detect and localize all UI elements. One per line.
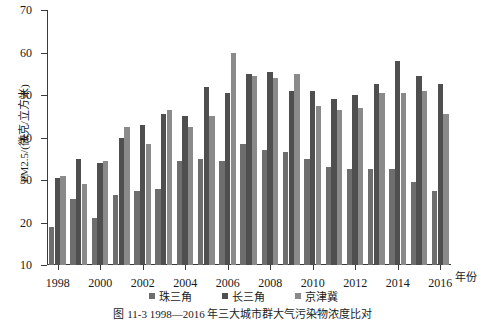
bar-2003-series-0[interactable] <box>155 189 160 266</box>
bar-2008-series-0[interactable] <box>262 150 267 265</box>
legend-swatch-icon <box>149 293 155 299</box>
bar-group-2008 <box>262 10 279 265</box>
bar-2009-series-2[interactable] <box>294 74 299 265</box>
figure-caption: 图 11-3 1998—2016 年三大城市群大气污染物浓度比对 <box>0 305 486 321</box>
bar-2010-series-1[interactable] <box>310 91 315 265</box>
x-tick-2008: 2008 <box>270 265 271 270</box>
x-tick-2006: 2006 <box>228 265 229 270</box>
bar-2011-series-0[interactable] <box>326 167 331 265</box>
bar-2002-series-2[interactable] <box>146 144 151 265</box>
bar-group-2007 <box>240 10 257 265</box>
bar-1998-series-0[interactable] <box>49 227 54 265</box>
bar-2008-series-2[interactable] <box>273 78 278 265</box>
legend-swatch-icon <box>295 293 301 299</box>
bar-2010-series-0[interactable] <box>304 159 309 265</box>
bar-2007-series-2[interactable] <box>252 76 257 265</box>
x-tick-2004: 2004 <box>185 265 186 270</box>
bar-2016-series-1[interactable] <box>438 84 443 265</box>
y-axis-line <box>47 10 48 265</box>
y-tick-30: 30 <box>41 180 47 181</box>
bar-2013-series-2[interactable] <box>379 93 384 265</box>
bar-group-2000 <box>92 10 109 265</box>
bar-group-1998 <box>49 10 66 265</box>
bar-2000-series-2[interactable] <box>103 161 108 265</box>
bar-group-2001 <box>113 10 130 265</box>
bar-2009-series-0[interactable] <box>283 152 288 265</box>
bar-2003-series-2[interactable] <box>167 110 172 265</box>
y-tick-label: 60 <box>20 45 32 60</box>
bar-group-2010 <box>304 10 321 265</box>
bar-2014-series-2[interactable] <box>401 93 406 265</box>
bar-2004-series-1[interactable] <box>182 116 187 265</box>
bar-group-2014 <box>389 10 406 265</box>
bar-group-2012 <box>347 10 364 265</box>
bar-2014-series-0[interactable] <box>389 169 394 265</box>
bar-2007-series-0[interactable] <box>240 144 245 265</box>
bar-2001-series-2[interactable] <box>124 127 129 265</box>
bar-2011-series-2[interactable] <box>337 110 342 265</box>
plot-area: 10203040506070 1998200020022004200620082… <box>47 10 451 265</box>
bar-2015-series-2[interactable] <box>422 91 427 265</box>
bar-1999-series-1[interactable] <box>76 159 81 265</box>
bar-2001-series-0[interactable] <box>113 195 118 265</box>
bar-2016-series-2[interactable] <box>443 114 448 265</box>
bar-2007-series-1[interactable] <box>246 74 251 265</box>
legend-item-0[interactable]: 珠三角 <box>149 288 192 304</box>
bar-2006-series-2[interactable] <box>231 53 236 266</box>
x-tick-2012: 2012 <box>355 265 356 270</box>
bar-group-2013 <box>368 10 385 265</box>
bar-2015-series-1[interactable] <box>416 76 421 265</box>
legend-label: 珠三角 <box>159 288 192 304</box>
bar-2005-series-0[interactable] <box>198 159 203 265</box>
bar-2005-series-1[interactable] <box>204 87 209 266</box>
bar-2013-series-1[interactable] <box>374 84 379 265</box>
bar-group-2004 <box>177 10 194 265</box>
legend-label: 长三角 <box>232 288 265 304</box>
bar-group-2011 <box>326 10 343 265</box>
bar-2001-series-1[interactable] <box>119 138 124 266</box>
bar-group-2006 <box>219 10 236 265</box>
bar-2012-series-0[interactable] <box>347 169 352 265</box>
bar-2010-series-2[interactable] <box>316 106 321 265</box>
x-tick-2000: 2000 <box>100 265 101 270</box>
bar-1999-series-0[interactable] <box>70 199 75 265</box>
y-tick-label: 40 <box>20 130 32 145</box>
bar-1999-series-2[interactable] <box>82 184 87 265</box>
bar-2000-series-1[interactable] <box>97 163 102 265</box>
bar-2006-series-1[interactable] <box>225 93 230 265</box>
bar-2015-series-0[interactable] <box>411 182 416 265</box>
bar-2005-series-2[interactable] <box>209 116 214 265</box>
bar-2012-series-1[interactable] <box>352 95 357 265</box>
bar-2004-series-0[interactable] <box>177 161 182 265</box>
y-tick-50: 50 <box>41 95 47 96</box>
legend-item-2[interactable]: 京津冀 <box>295 288 338 304</box>
bar-group-2009 <box>283 10 300 265</box>
y-tick-label: 20 <box>20 215 32 230</box>
y-tick-40: 40 <box>41 138 47 139</box>
bar-2003-series-1[interactable] <box>161 114 166 265</box>
bar-2011-series-1[interactable] <box>331 99 336 265</box>
bar-2002-series-0[interactable] <box>134 191 139 265</box>
bar-2000-series-0[interactable] <box>92 218 97 265</box>
y-tick-label: 10 <box>20 258 32 273</box>
legend-swatch-icon <box>222 293 228 299</box>
legend-item-1[interactable]: 长三角 <box>222 288 265 304</box>
bar-2009-series-1[interactable] <box>289 91 294 265</box>
bar-2014-series-1[interactable] <box>395 61 400 265</box>
bar-2004-series-2[interactable] <box>188 127 193 265</box>
bar-group-2015 <box>411 10 428 265</box>
x-tick-2016: 2016 <box>440 265 441 270</box>
bar-group-2016 <box>432 10 449 265</box>
y-tick-10: 10 <box>41 265 47 266</box>
bar-2013-series-0[interactable] <box>368 169 373 265</box>
bar-2006-series-0[interactable] <box>219 161 224 265</box>
bar-2002-series-1[interactable] <box>140 125 145 265</box>
legend-label: 京津冀 <box>305 288 338 304</box>
bar-1998-series-1[interactable] <box>55 178 60 265</box>
bar-2008-series-1[interactable] <box>267 72 272 265</box>
bar-2012-series-2[interactable] <box>358 108 363 265</box>
bar-1998-series-2[interactable] <box>60 176 65 265</box>
bar-2016-series-0[interactable] <box>432 191 437 265</box>
bar-group-2005 <box>198 10 215 265</box>
